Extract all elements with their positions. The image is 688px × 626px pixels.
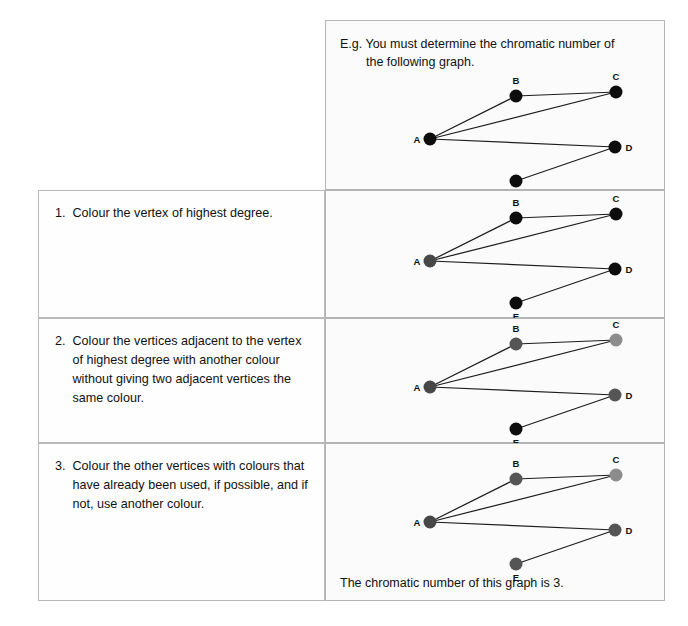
graph-vertex-label-D: D	[626, 142, 633, 153]
example-intro-line1: E.g. You must determine the chromatic nu…	[340, 37, 614, 51]
procedure-table: E.g. You must determine the chromatic nu…	[38, 20, 665, 601]
graph-edge-AB	[430, 218, 516, 261]
graph-edge-AD	[430, 387, 615, 395]
graph-edge-DE	[516, 269, 615, 303]
step-3-body: Colour the other vertices with colours t…	[73, 457, 312, 514]
graph-edge-AC	[430, 92, 616, 139]
graph-vertex-label-A: A	[414, 382, 421, 393]
graph-vertex-label-A: A	[414, 134, 421, 145]
graph-vertex-E	[510, 423, 523, 436]
step-3-graph-cell: ABCDE The chromatic number of this graph…	[325, 443, 665, 601]
graph-vertex-A	[424, 255, 437, 268]
graph-step-0: ABCDE	[368, 69, 658, 199]
graph-vertex-label-C: C	[613, 319, 620, 330]
graph-vertex-label-C: C	[613, 454, 620, 465]
graph-edge-DE	[516, 395, 615, 429]
graph-edge-AC	[430, 340, 616, 387]
graph-vertex-B	[510, 338, 523, 351]
graph-vertex-B	[510, 90, 523, 103]
graph-vertex-label-C: C	[613, 71, 620, 82]
graph-vertex-B	[510, 212, 523, 225]
step-1-body: Colour the vertex of highest degree.	[73, 204, 312, 223]
example-cell: E.g. You must determine the chromatic nu…	[325, 20, 665, 190]
graph-edge-AD	[430, 261, 615, 269]
graph-vertex-D	[609, 389, 622, 402]
graph-vertex-A	[424, 381, 437, 394]
graph-vertex-E	[510, 175, 523, 188]
graph-vertex-label-A: A	[414, 256, 421, 267]
step-2-text: 2. Colour the vertices adjacent to the v…	[55, 332, 312, 408]
graph-vertex-A	[424, 133, 437, 146]
graph-vertex-C	[610, 208, 623, 221]
chromatic-number-caption: The chromatic number of this graph is 3.	[340, 576, 564, 590]
graph-vertex-B	[510, 473, 523, 486]
graph-edge-AD	[430, 522, 615, 530]
graph-vertex-E	[510, 558, 523, 571]
step-2-body: Colour the vertices adjacent to the vert…	[73, 332, 312, 408]
graph-vertex-E	[510, 297, 523, 310]
step-1-cell: 1. Colour the vertex of highest degree.	[38, 190, 325, 318]
graph-edge-AC	[430, 475, 616, 522]
graph-edge-AB	[430, 344, 516, 387]
graph-vertex-label-D: D	[626, 390, 633, 401]
graph-vertex-label-B: B	[513, 323, 520, 334]
example-intro: E.g. You must determine the chromatic nu…	[340, 35, 652, 71]
graph-step-3: ABCDE	[368, 452, 658, 582]
graph-edge-DE	[516, 530, 615, 564]
graph-step-2: ABCDE	[368, 317, 658, 447]
graph-vertex-label-B: B	[513, 75, 520, 86]
graph-vertex-C	[610, 469, 623, 482]
graph-vertex-D	[609, 263, 622, 276]
graph-vertex-label-D: D	[626, 264, 633, 275]
step-1-graph-cell: ABCDE	[325, 190, 665, 318]
graph-vertex-label-B: B	[513, 197, 520, 208]
step-2-cell: 2. Colour the vertices adjacent to the v…	[38, 318, 325, 443]
graph-vertex-label-B: B	[513, 458, 520, 469]
graph-vertex-label-D: D	[626, 525, 633, 536]
graph-edge-AC	[430, 214, 616, 261]
step-3-number: 3.	[55, 457, 66, 514]
step-2-graph-cell: ABCDE	[325, 318, 665, 443]
empty-cell	[38, 20, 325, 190]
graph-edge-AB	[430, 96, 516, 139]
graph-vertex-label-A: A	[414, 517, 421, 528]
step-1-number: 1.	[55, 204, 66, 223]
graph-step-1: ABCDE	[368, 191, 658, 321]
graph-vertex-C	[610, 334, 623, 347]
graph-vertex-D	[609, 524, 622, 537]
graph-vertex-A	[424, 516, 437, 529]
graph-edge-AB	[430, 479, 516, 522]
graph-vertex-D	[609, 141, 622, 154]
worksheet-page: E.g. You must determine the chromatic nu…	[0, 0, 688, 626]
step-1-text: 1. Colour the vertex of highest degree.	[55, 204, 312, 223]
graph-vertex-label-C: C	[613, 193, 620, 204]
step-3-text: 3. Colour the other vertices with colour…	[55, 457, 312, 514]
step-2-number: 2.	[55, 332, 66, 408]
graph-edge-AD	[430, 139, 615, 147]
graph-vertex-C	[610, 86, 623, 99]
step-3-cell: 3. Colour the other vertices with colour…	[38, 443, 325, 601]
graph-edge-DE	[516, 147, 615, 181]
